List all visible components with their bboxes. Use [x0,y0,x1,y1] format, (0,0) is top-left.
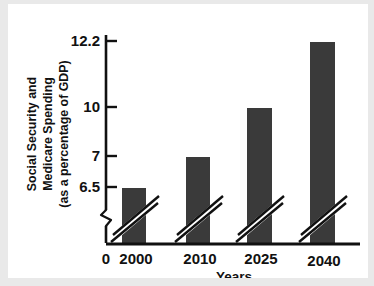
y-axis-break-mark [101,210,111,226]
y-axis-title-line-1: Social Security and [25,77,39,191]
y-axis-title-line-2: Medicare Spending [41,77,55,191]
bar-chart: Social Security and Medicare Spending (a… [8,4,368,278]
figure-container: Social Security and Medicare Spending (a… [0,0,374,286]
y-tick-label-7: 7 [92,147,100,164]
origin-label: 0 [102,250,110,267]
y-tick-label-6-5: 6.5 [79,178,100,195]
x-tick-label-2040: 2040 [307,252,340,269]
y-axis-title-line-3: (as a percentage of GDP) [57,60,71,207]
x-tick-label-2000: 2000 [119,250,152,267]
y-axis-break-zigzag [101,210,111,226]
y-tick-label-12-2: 12.2 [71,32,100,49]
x-axis-tick-labels: 2000 2010 2025 2040 [119,250,340,269]
y-tick-label-10: 10 [83,98,100,115]
chart-plate: Social Security and Medicare Spending (a… [8,4,368,278]
y-axis-title: Social Security and Medicare Spending (a… [25,60,71,207]
x-tick-label-2010: 2010 [183,250,216,267]
x-axis-title: Years [216,269,252,278]
x-tick-label-2025: 2025 [244,250,277,267]
y-axis-tick-labels: 12.2 10 7 6.5 [71,32,100,195]
y-axis-ticks [106,41,117,187]
